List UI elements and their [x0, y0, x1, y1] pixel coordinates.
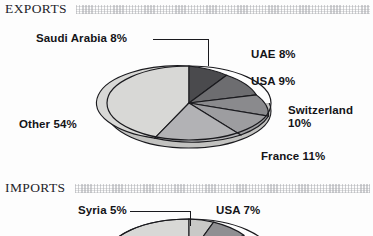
- exports-section-header: EXPORTS: [5, 1, 370, 17]
- label-france: France 11%: [261, 150, 325, 163]
- label-usa-exports: USA 9%: [251, 75, 295, 88]
- exports-header-rule: [76, 5, 370, 14]
- imports-header-rule: [75, 184, 370, 193]
- syria-leader-line: [130, 211, 191, 227]
- imports-title: IMPORTS: [5, 180, 66, 196]
- saudi-arabia-leader-line: [153, 39, 209, 67]
- label-syria: Syria 5%: [78, 204, 127, 217]
- label-saudi-arabia: Saudi Arabia 8%: [36, 32, 127, 45]
- label-usa-imports: USA 7%: [216, 204, 260, 217]
- imports-section-header: IMPORTS: [5, 180, 370, 196]
- label-switzerland: Switzerland 10%: [288, 104, 353, 129]
- label-uae: UAE 8%: [251, 48, 296, 61]
- exports-title: EXPORTS: [5, 1, 67, 17]
- label-other: Other 54%: [19, 118, 77, 131]
- scanned-page: EXPORTS: [0, 0, 373, 236]
